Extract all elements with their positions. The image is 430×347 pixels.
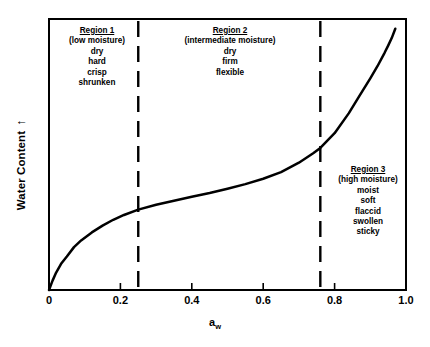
x-tick-label-0.6: 0.6 (243, 294, 283, 306)
y-axis-label-text: Water Content (15, 131, 27, 210)
region-1-descriptor: hard (56, 57, 138, 67)
region-1-subtitle: (low moisture) (56, 36, 138, 46)
region-3-descriptor: swollen (326, 217, 410, 227)
x-tick-label-1.0: 1.0 (386, 294, 426, 306)
region-2-descriptor: firm (163, 57, 297, 67)
region-1-descriptor: dry (56, 47, 138, 57)
region-2-annotation: Region 2 (intermediate moisture) dry fir… (163, 26, 297, 78)
region-1-title: Region 1 (56, 26, 138, 36)
region-3-descriptor: moist (326, 186, 410, 196)
y-axis-label: Water Content↑ (14, 100, 28, 230)
region-1-descriptor: crisp (56, 68, 138, 78)
x-axis-label-subscript: w (215, 322, 221, 331)
region-3-descriptor: soft (326, 196, 410, 206)
sorption-isotherm-figure: Water Content↑ aw 0 0.2 0.4 0.6 0.8 1.0 … (0, 0, 430, 347)
region-2-subtitle: (intermediate moisture) (163, 36, 297, 46)
region-2-title: Region 2 (163, 26, 297, 36)
region-3-descriptor: flaccid (326, 207, 410, 217)
region-1-annotation: Region 1 (low moisture) dry hard crisp s… (56, 26, 138, 88)
region-3-subtitle: (high moisture) (326, 175, 410, 185)
x-axis-ticks (49, 283, 406, 290)
region-3-annotation: Region 3 (high moisture) moist soft flac… (326, 165, 410, 238)
region-2-descriptor: dry (163, 47, 297, 57)
region-1-descriptor: shrunken (56, 78, 138, 88)
x-tick-label-0.2: 0.2 (100, 294, 140, 306)
y-axis-arrow-icon: ↑ (14, 120, 28, 126)
x-tick-label-0.8: 0.8 (315, 294, 355, 306)
x-tick-label-0.4: 0.4 (172, 294, 212, 306)
x-axis-label: aw (0, 316, 430, 328)
region-3-descriptor: sticky (326, 227, 410, 237)
region-3-title: Region 3 (326, 165, 410, 175)
region-2-descriptor: flexible (163, 68, 297, 78)
x-tick-label-0: 0 (29, 294, 69, 306)
